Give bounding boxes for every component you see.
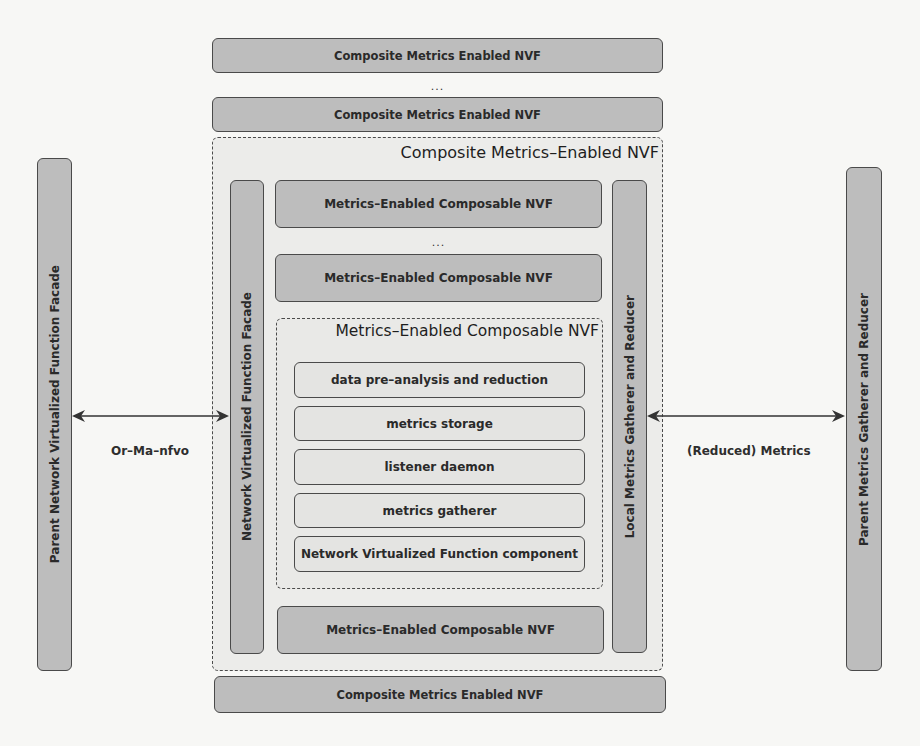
or-ma-nfvo-label: Or–Ma–nfvo	[111, 444, 189, 458]
or-ma-nfvo-arrow-icon	[0, 0, 920, 746]
reduced-metrics-label: (Reduced) Metrics	[687, 444, 811, 458]
